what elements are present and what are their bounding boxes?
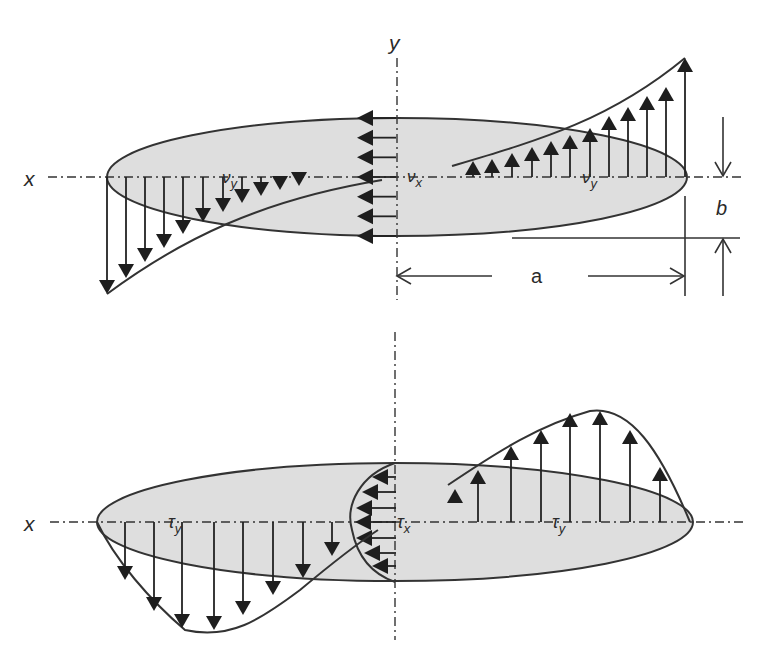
x-axis-label-top: x	[23, 167, 36, 190]
vy-left-arrow-5-head-icon	[175, 220, 191, 234]
tau-y-left-arrow-3-head-icon	[174, 614, 190, 628]
x-axis-label-bottom: x	[23, 512, 36, 535]
vy-left-arrow-1-head-icon	[99, 280, 115, 294]
vy-right-arrow-8-head-icon	[601, 116, 617, 130]
vy-right-arrow-11-head-icon	[658, 87, 674, 101]
label-tau-x-sub: x	[403, 521, 411, 536]
vy-left-arrow-4-head-icon	[156, 234, 172, 248]
tau-y-left-arrow-2-head-icon	[146, 597, 162, 611]
bottom-panel: x τy τx τy	[23, 332, 745, 640]
diagram-canvas: x y νy νx νy a	[0, 0, 779, 664]
tau-y-left-arrow-5-head-icon	[235, 601, 251, 615]
vy-left-arrow-3-head-icon	[137, 248, 153, 262]
tau-y-left-arrow-4-head-icon	[206, 616, 222, 630]
tau-y-right-arrow-6-head-icon	[592, 411, 608, 425]
vy-right-arrow-10-head-icon	[639, 96, 655, 110]
vy-right-arrow-12-head-icon	[677, 58, 693, 72]
top-panel: x y νy νx νy a	[23, 31, 745, 300]
dimension-b-label: b	[716, 197, 727, 219]
y-axis-label-top: y	[387, 31, 401, 54]
vy-right-arrow-9-head-icon	[620, 107, 636, 121]
dimension-a-label: a	[531, 265, 543, 287]
label-nu-x-sub: x	[415, 175, 423, 190]
tau-y-right-arrow-7-head-icon	[622, 430, 638, 444]
tau-y-left-arrow-6-head-icon	[265, 581, 281, 595]
